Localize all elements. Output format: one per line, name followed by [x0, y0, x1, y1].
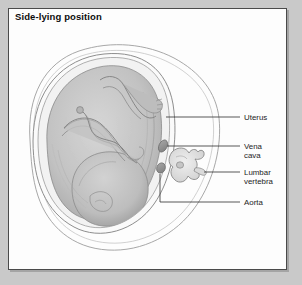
label-uterus: Uterus: [244, 113, 267, 122]
illustration: Uterus Vena cava Lumbar vertebra Aorta: [0, 0, 302, 285]
figure-root: Side-lying position: [0, 0, 302, 285]
label-group: Uterus Vena cava Lumbar vertebra Aorta: [244, 113, 274, 207]
label-lumbar-vertebra-line1: Lumbar: [244, 168, 271, 177]
lumbar-vertebra-body: [169, 148, 206, 182]
leader-aorta: [160, 174, 240, 202]
label-vena-cava-line1: Vena: [244, 142, 263, 151]
label-lumbar-vertebra-line2: vertebra: [244, 177, 274, 186]
label-aorta: Aorta: [244, 198, 263, 207]
label-vena-cava-line2: cava: [244, 151, 261, 160]
fetus: [47, 66, 163, 227]
